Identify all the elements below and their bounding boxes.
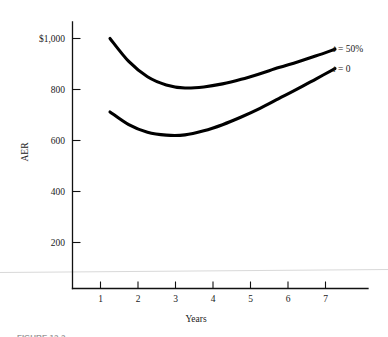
x-axis-title: Years	[185, 314, 207, 324]
x-tick-label-7: 7	[323, 294, 328, 304]
curve-t-50-percent	[110, 39, 335, 89]
curve-t-0	[110, 69, 335, 136]
y-tick-label-600: 600	[51, 136, 66, 146]
x-tick-label-5: 5	[248, 294, 253, 304]
scan-artifact-line	[0, 270, 388, 273]
x-tick-label-3: 3	[173, 294, 178, 304]
y-tick-label-400: 400	[51, 187, 66, 197]
figure-root: $1,000 800 600 400 200 AER 1 2 3 4 5 6 7	[0, 0, 388, 337]
series-label-t-50-percent: t = 50%	[333, 44, 363, 54]
x-tick-label-6: 6	[286, 294, 291, 304]
y-tick-label-1000: $1,000	[39, 34, 65, 44]
x-tick-label-1: 1	[98, 294, 103, 304]
x-tick-label-4: 4	[211, 294, 216, 304]
aer-vs-years-line-chart: $1,000 800 600 400 200 AER 1 2 3 4 5 6 7	[0, 0, 388, 337]
y-tick-label-800: 800	[51, 85, 66, 95]
x-axis-tick-labels: 1 2 3 4 5 6 7	[98, 294, 328, 304]
y-axis-title: AER	[20, 142, 30, 162]
y-axis-ticks	[73, 39, 81, 243]
series-label-t-0: t = 0	[333, 64, 351, 74]
x-tick-label-2: 2	[136, 294, 141, 304]
y-axis-tick-labels: $1,000 800 600 400 200	[39, 34, 65, 248]
y-tick-label-200: 200	[51, 238, 66, 248]
x-axis-ticks	[101, 282, 326, 289]
